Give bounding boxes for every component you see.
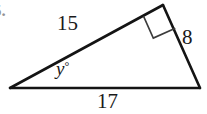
geometry-figure: 5. 15 8 17 y° bbox=[0, 0, 207, 114]
triangle-side-hypotenuse-left bbox=[10, 5, 163, 88]
side-label-17: 17 bbox=[97, 91, 118, 112]
side-label-8: 8 bbox=[182, 27, 193, 48]
side-label-15: 15 bbox=[57, 13, 78, 34]
degree-symbol: ° bbox=[64, 59, 69, 73]
angle-label-y-degrees: y° bbox=[56, 59, 69, 78]
